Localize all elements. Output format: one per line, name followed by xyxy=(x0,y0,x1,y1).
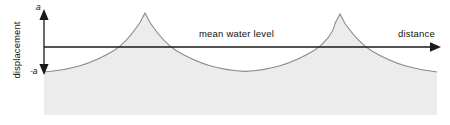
wave-diagram-canvas xyxy=(0,0,450,125)
arrow-right-icon xyxy=(430,42,441,52)
x-axis-label: distance xyxy=(398,29,435,39)
y-axis-label: displacement xyxy=(12,21,22,78)
mean-water-level-label: mean water level xyxy=(199,29,274,39)
wave-diagram-figure: displacement a -a mean water level dista… xyxy=(0,0,450,125)
amplitude-negative-label: -a xyxy=(30,67,38,76)
amplitude-positive-label: a xyxy=(36,3,41,12)
